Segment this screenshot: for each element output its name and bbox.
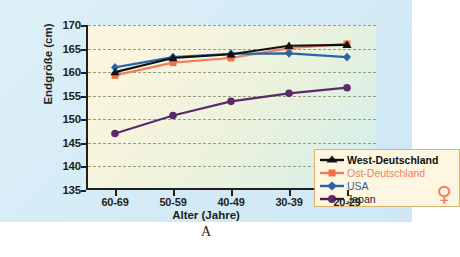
x-axis-tick-label: 30-39 — [275, 196, 302, 208]
y-axis-tick-labels: 135140145150155160165170 — [46, 25, 81, 190]
y-axis-tick-label: 165 — [62, 43, 81, 55]
y-axis-tick-label: 160 — [62, 66, 81, 78]
y-axis-tick-mark — [81, 49, 86, 51]
series-line-japan — [115, 88, 347, 134]
x-axis-tick-label: 50-59 — [159, 196, 186, 208]
y-axis-tick-mark — [81, 190, 86, 192]
y-axis-tick-label: 155 — [62, 90, 81, 102]
data-point — [227, 98, 235, 106]
y-axis-tick-mark — [81, 166, 86, 168]
legend-label-west-deutschland: West-Deutschland — [347, 154, 438, 166]
data-point — [285, 90, 293, 98]
legend-marker-diamond-icon — [319, 180, 345, 192]
y-axis-tick-label: 135 — [62, 184, 81, 196]
y-axis-tick-label: 140 — [62, 160, 81, 172]
legend-label-usa: USA — [347, 180, 369, 192]
y-axis-tick-mark — [81, 143, 86, 145]
y-axis-tick-mark — [81, 119, 86, 121]
y-axis-tick-label: 150 — [62, 113, 81, 125]
legend-item-usa: USA — [319, 179, 455, 192]
x-axis-tick-label: 20-29 — [333, 196, 360, 208]
y-axis-tick-mark — [81, 96, 86, 98]
legend-item-ost-deutschland: Ost-Deutschland — [319, 166, 455, 179]
legend-marker-triangle-icon — [319, 154, 345, 166]
y-axis-tick-label: 145 — [62, 137, 81, 149]
x-axis-tick-label: 60-69 — [101, 196, 128, 208]
figure-caption: A — [0, 224, 412, 240]
data-point — [343, 84, 351, 92]
x-axis-title: Alter (Jahre) — [0, 209, 412, 221]
figure-panel: Endgröße (cm) 135140145150155160165170 W… — [0, 0, 412, 222]
legend-marker-square-icon — [319, 167, 345, 179]
y-axis-tick-label: 170 — [62, 19, 81, 31]
y-axis-tick-mark — [81, 25, 86, 27]
female-symbol-icon: ♀ — [437, 184, 452, 204]
plot-container: West-Deutschland Ost-Deutschland — [86, 25, 376, 190]
y-axis-tick-mark — [81, 72, 86, 74]
x-axis-tick-label: 40-49 — [217, 196, 244, 208]
legend-item-west-deutschland: West-Deutschland — [319, 153, 455, 166]
data-point — [111, 130, 119, 138]
data-point — [169, 112, 177, 120]
data-point — [343, 53, 351, 62]
legend-label-ost-deutschland: Ost-Deutschland — [347, 167, 425, 179]
